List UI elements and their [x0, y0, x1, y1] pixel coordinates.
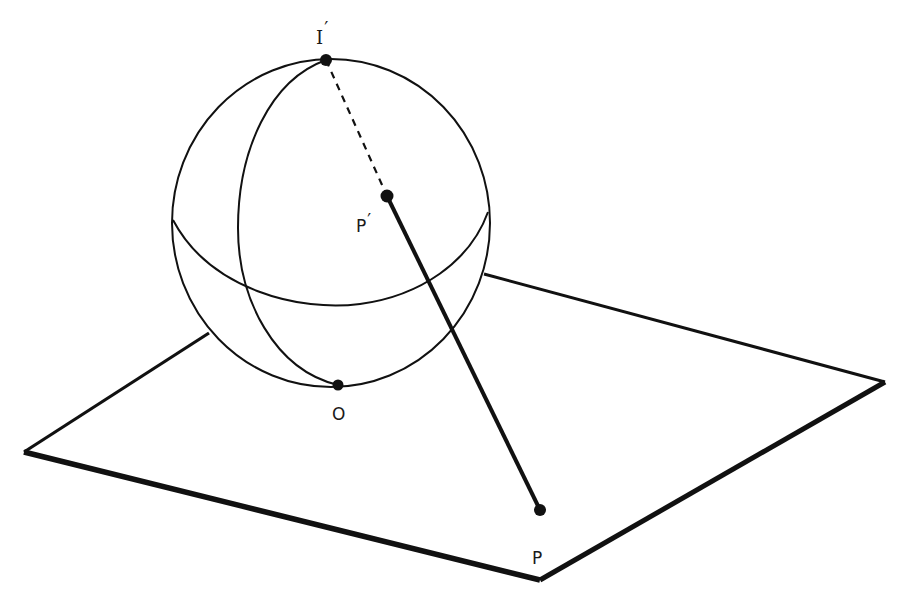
point-o: [333, 380, 344, 391]
point-p: [534, 504, 546, 516]
point-i-prime: [320, 54, 332, 66]
label-p-prime: P′: [356, 210, 371, 236]
stereographic-projection-diagram: I′ P′ O P: [0, 0, 902, 611]
label-i-prime: I′: [316, 18, 328, 48]
point-p-prime: [381, 190, 394, 203]
plane-edge-front-right: [540, 382, 885, 580]
sphere: [172, 59, 490, 387]
sphere-equator: [173, 212, 488, 306]
plane-edge-back-right: [484, 274, 885, 382]
dashed-line-pole-to-p-prime: [326, 60, 387, 196]
label-o: O: [332, 404, 345, 424]
label-p: P: [532, 548, 542, 568]
sphere-meridian: [238, 60, 338, 385]
plane: [24, 274, 885, 580]
sphere-outline: [172, 59, 490, 387]
solid-line-p-prime-to-p: [387, 196, 540, 510]
plane-edge-front-left: [24, 452, 540, 580]
plane-edge-back-left: [24, 333, 209, 452]
